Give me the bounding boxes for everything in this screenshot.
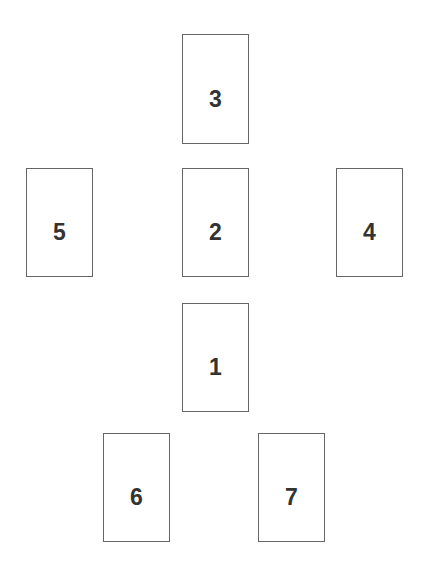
card-1[interactable]: 1 — [182, 303, 249, 412]
card-2[interactable]: 2 — [182, 168, 249, 277]
card-6[interactable]: 6 — [103, 433, 170, 542]
card-label-5: 5 — [27, 221, 92, 244]
card-7[interactable]: 7 — [258, 433, 325, 542]
card-label-2: 2 — [183, 221, 248, 244]
card-label-3: 3 — [183, 88, 248, 111]
card-3[interactable]: 3 — [182, 34, 249, 144]
card-label-7: 7 — [259, 486, 324, 509]
card-board: 3524167 — [0, 0, 422, 576]
card-4[interactable]: 4 — [336, 168, 403, 277]
card-label-6: 6 — [104, 486, 169, 509]
card-label-4: 4 — [337, 221, 402, 244]
card-label-1: 1 — [183, 356, 248, 379]
card-5[interactable]: 5 — [26, 168, 93, 277]
